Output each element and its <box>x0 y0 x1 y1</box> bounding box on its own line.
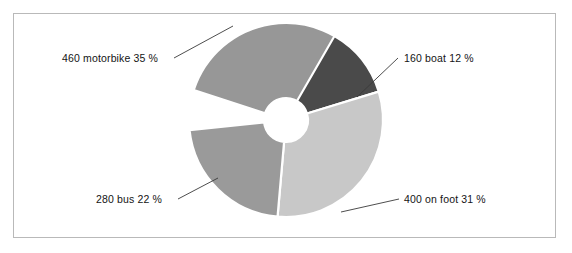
donut-center-hole <box>264 98 308 142</box>
leader-line-on-foot <box>341 199 399 212</box>
pie-chart: 460 motorbike 35 % 160 boat 12 % 400 on … <box>0 0 572 253</box>
slice-label-on-foot: 400 on foot 31 % <box>404 193 486 205</box>
slice-label-motorbike: 460 motorbike 35 % <box>62 52 158 64</box>
slice-label-boat: 160 boat 12 % <box>404 52 474 64</box>
screenshot-root: 460 motorbike 35 % 160 boat 12 % 400 on … <box>0 0 572 253</box>
slice-label-bus: 280 bus 22 % <box>96 193 162 205</box>
leader-line-bus <box>178 178 218 199</box>
pie-slice-bus[interactable] <box>190 122 285 216</box>
